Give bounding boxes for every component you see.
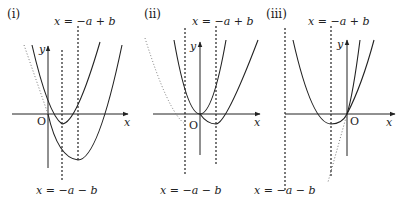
parabola-steep: [347, 40, 360, 114]
origin-label: O: [37, 116, 46, 127]
diagram-canvas: [0, 0, 398, 203]
parabola-shifted: [293, 40, 347, 124]
panel-label-i: (i): [7, 8, 20, 20]
top-line-label: x = −a + b: [54, 16, 115, 27]
y-axis-label: y: [190, 41, 196, 52]
x-axis-label: x: [124, 117, 130, 128]
top-line-label: x = −a + b: [308, 16, 369, 27]
y-axis-label: y: [337, 39, 343, 50]
bottom-line-label: x = −a − b: [36, 185, 97, 196]
parabola-shifted: [200, 40, 258, 124]
dotted-parabola: [145, 38, 185, 124]
bottom-line-label: x = −a − b: [160, 185, 221, 196]
parabola-small: [32, 45, 62, 124]
parabola-wide: [347, 40, 374, 114]
x-axis-label: x: [254, 117, 260, 128]
parabola-large: [48, 45, 122, 160]
y-axis-label: y: [39, 44, 45, 55]
panel-ii-graph: [145, 26, 260, 174]
bottom-line-label: x = −a − b: [254, 185, 315, 196]
panel-label-iii: (iii): [266, 8, 287, 20]
top-line-label: x = −a + b: [192, 16, 253, 27]
panel-label-ii: (ii): [144, 8, 161, 20]
panel-i-graph: [12, 26, 128, 180]
origin-label: O: [189, 120, 198, 131]
x-axis-label: x: [386, 117, 392, 128]
origin-label: O: [350, 116, 359, 127]
